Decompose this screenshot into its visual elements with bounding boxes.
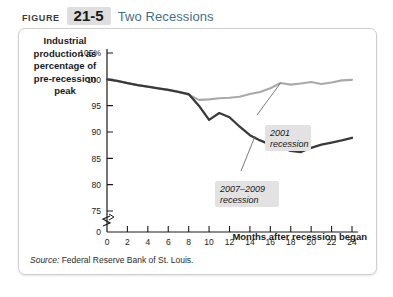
x-tick-label: 14: [245, 237, 255, 247]
x-tick-label: 18: [286, 237, 296, 247]
figure-number-badge: 21-5: [67, 7, 111, 25]
series-line-2001: [107, 79, 352, 100]
x-tick-label: 20: [306, 237, 316, 247]
x-tick-label: 2: [125, 237, 130, 247]
callout-leader-line: [241, 136, 255, 171]
x-tick-label: 10: [204, 237, 214, 247]
x-tick-label: 8: [186, 237, 191, 247]
line-chart-plot: 7580859095100105%00246810121416182022242…: [19, 29, 376, 274]
y-tick-label-zero: 0: [96, 227, 101, 237]
source-label: Source:: [30, 255, 59, 265]
chart-panel: Industrial production as percentage of p…: [18, 28, 377, 275]
x-axis-break-icon: [109, 214, 114, 220]
y-tick-label: 90: [92, 127, 102, 137]
x-tick-label: 12: [225, 237, 235, 247]
y-tick-label: 75: [92, 206, 102, 216]
figure-root: FIGURE 21-5 Two Recessions Industrial pr…: [0, 0, 393, 297]
x-tick-label: 16: [266, 237, 276, 247]
callout-line-1: 2001: [269, 128, 290, 138]
x-tick-label: 4: [145, 237, 150, 247]
source-note: Source: Federal Reserve Bank of St. Loui…: [30, 255, 193, 265]
y-tick-label: 105%: [79, 48, 101, 58]
x-tick-label: 6: [166, 237, 171, 247]
figure-header: FIGURE 21-5 Two Recessions: [22, 7, 214, 25]
y-tick-label: 80: [92, 180, 102, 190]
source-text: Federal Reserve Bank of St. Louis.: [59, 255, 193, 265]
series-line-2007-2009: [107, 79, 352, 152]
y-tick-label: 95: [92, 101, 102, 111]
x-tick-label: 22: [327, 237, 337, 247]
x-tick-label: 24: [347, 237, 357, 247]
y-tick-label: 85: [92, 154, 102, 164]
y-tick-label: 100: [87, 75, 101, 85]
x-tick-label: 0: [105, 237, 110, 247]
figure-word: FIGURE: [22, 13, 60, 23]
callout-line-2: recession: [270, 139, 309, 149]
callout-line-1: 2007–2009: [219, 184, 265, 194]
y-axis-break-icon: [103, 216, 110, 226]
callout-line-2: recession: [220, 195, 259, 205]
figure-title: Two Recessions: [118, 9, 214, 24]
